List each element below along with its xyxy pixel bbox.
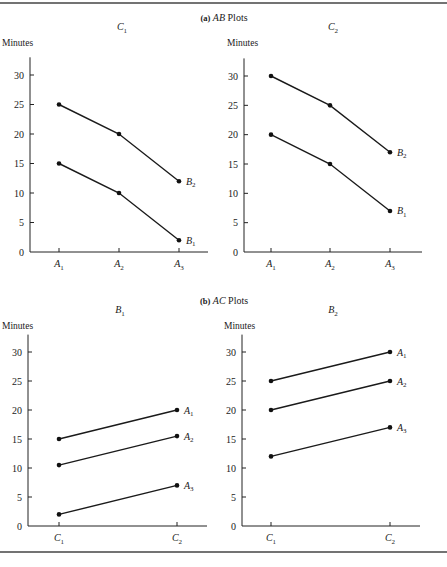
- panel-title: B1: [115, 304, 125, 318]
- x-tick-label-c1: C1: [266, 532, 277, 546]
- data-point-a3-c1: [269, 454, 274, 459]
- series-label-b2: B2: [186, 176, 196, 190]
- y-tick-label: 5: [19, 217, 24, 228]
- y-tick-label: 0: [233, 247, 238, 258]
- panel-c1: C1Minutes051015202530A1A2A3B2B1: [2, 21, 208, 272]
- series-label-b1-sub: 1: [192, 240, 196, 248]
- series-label-a2-sub: 2: [403, 381, 407, 389]
- panel-title: C1: [117, 21, 128, 35]
- panel-b2: B2Minutes051015202530C1C2A1A2A3: [224, 304, 420, 546]
- section-title-a-italic: AB: [212, 12, 225, 23]
- section-title-a-prefix: (a): [200, 13, 210, 23]
- data-point-b2-a2: [328, 103, 333, 108]
- x-tick-label-a2: A2: [324, 258, 335, 272]
- y-tick-label: 0: [17, 521, 22, 532]
- y-tick-label: 20: [12, 405, 22, 416]
- data-point-b2-a3: [177, 179, 182, 184]
- panel-title: B2: [328, 304, 338, 318]
- series-label-b2: B2: [397, 147, 407, 161]
- data-point-b1-a1: [269, 132, 274, 137]
- y-tick-label: 20: [226, 405, 236, 416]
- y-tick-label: 25: [228, 100, 238, 111]
- x-tick-label-c2: C2: [172, 532, 183, 546]
- series-label-a1-sub: 1: [190, 410, 194, 418]
- y-tick-label: 30: [228, 71, 238, 82]
- series-label-a2: A2: [396, 376, 407, 390]
- data-point-a1-c1: [269, 379, 274, 384]
- y-tick-label: 20: [14, 129, 24, 140]
- x-tick-label-a2: A2: [113, 258, 124, 272]
- series-line-a2: [59, 436, 177, 465]
- data-point-b1-a2: [117, 191, 122, 196]
- y-tick-label: 25: [14, 99, 24, 110]
- y-tick-label: 25: [12, 376, 22, 387]
- series-line-b2: [59, 105, 179, 182]
- y-tick-label: 30: [226, 347, 236, 358]
- series-label-b2-sub: 2: [403, 152, 407, 160]
- series-label-b2-sub: 2: [192, 181, 196, 189]
- data-point-a1-c1: [57, 437, 62, 442]
- data-point-b2-a1: [57, 102, 62, 107]
- x-tick-label-c2-sub: 2: [392, 538, 396, 546]
- y-tick-label: 10: [226, 463, 236, 474]
- x-tick-label-a3-sub: 3: [391, 264, 395, 272]
- y-axis-label: Minutes: [227, 38, 258, 48]
- data-point-b1-a1: [57, 161, 62, 166]
- y-tick-label: 15: [228, 159, 238, 170]
- series-label-a3: A3: [396, 422, 407, 436]
- data-point-a2-c1: [269, 408, 274, 413]
- data-point-b2-a2: [117, 132, 122, 137]
- series-line-a3: [271, 427, 390, 456]
- x-tick-label-a3: A3: [384, 258, 395, 272]
- x-tick-label-a1-sub: 1: [60, 264, 64, 272]
- y-tick-label: 5: [233, 217, 238, 228]
- series-label-a1: A1: [396, 347, 407, 361]
- panel-title-sub: 2: [334, 310, 338, 318]
- y-tick-label: 10: [228, 188, 238, 199]
- y-axis-label: Minutes: [2, 321, 33, 331]
- x-tick-label-a3: A3: [173, 258, 184, 272]
- series-line-b1: [271, 135, 390, 211]
- data-point-a3-c1: [57, 512, 62, 517]
- y-tick-label: 5: [231, 492, 236, 503]
- x-tick-label-a1: A1: [53, 258, 64, 272]
- panel-title: C2: [328, 21, 339, 35]
- data-point-a3-c2: [175, 483, 180, 488]
- x-tick-label-c1: C1: [54, 532, 65, 546]
- y-tick-label: 30: [12, 347, 22, 358]
- panels: C1Minutes051015202530A1A2A3B2B1C2Minutes…: [2, 21, 422, 546]
- y-tick-label: 25: [226, 376, 236, 387]
- y-axis-label: Minutes: [2, 38, 33, 48]
- series-label-a1: A1: [183, 405, 194, 419]
- x-tick-label-a1: A1: [265, 258, 276, 272]
- section-title-a: (a) AB Plots: [200, 12, 247, 23]
- data-point-b2-a3: [388, 150, 393, 155]
- data-point-b1-a3: [388, 209, 393, 214]
- panel-title-sub: 1: [121, 310, 125, 318]
- panel-c2: C2Minutes051015202530A1A2A3B2B1: [227, 21, 422, 272]
- data-point-a1-c2: [388, 350, 393, 355]
- x-tick-label-c2-sub: 2: [179, 538, 183, 546]
- series-line-a1: [59, 410, 177, 439]
- panel-title-sub: 1: [124, 27, 128, 35]
- y-tick-label: 10: [14, 188, 24, 199]
- x-tick-label-c1-sub: 1: [273, 538, 277, 546]
- series-label-a3-sub: 3: [190, 485, 194, 493]
- figure-canvas: (a) AB Plots (b) AC Plots C1Minutes05101…: [0, 0, 447, 567]
- panel-b1: B1Minutes051015202530C1C2A1A2A3: [2, 304, 207, 546]
- y-tick-label: 30: [14, 70, 24, 81]
- series-label-a1-sub: 1: [403, 352, 407, 360]
- series-line-b1: [59, 164, 179, 241]
- y-tick-label: 0: [19, 247, 24, 258]
- data-point-a2-c2: [388, 379, 393, 384]
- section-title-b: (b) AC Plots: [200, 295, 248, 306]
- panel-title-sub: 2: [335, 27, 339, 35]
- series-line-a3: [59, 485, 177, 514]
- data-point-a3-c2: [388, 425, 393, 430]
- x-tick-label-a3-sub: 3: [180, 264, 184, 272]
- x-tick-label-a2-sub: 2: [120, 264, 124, 272]
- data-point-a1-c2: [175, 408, 180, 413]
- section-title-b-italic: AC: [212, 295, 226, 306]
- series-line-b2: [271, 76, 390, 152]
- x-tick-label-a1-sub: 1: [272, 264, 276, 272]
